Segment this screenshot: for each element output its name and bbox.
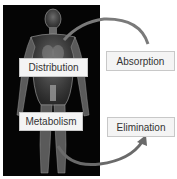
- absorption-arrow: [64, 19, 148, 44]
- metabolism-label: Metabolism: [19, 112, 83, 131]
- absorption-label: Absorption: [106, 51, 175, 71]
- flow-arrows: [0, 0, 177, 179]
- distribution-label: Distribution: [19, 58, 88, 77]
- elimination-label: Elimination: [107, 117, 175, 137]
- elimination-arrow: [58, 142, 142, 165]
